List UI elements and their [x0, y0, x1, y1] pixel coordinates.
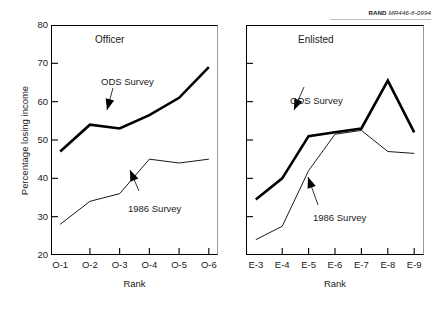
officer-plot-area: [51, 25, 218, 255]
x-tick-label-O-2: O-2: [82, 259, 98, 270]
officer-panel: Officer: [51, 25, 218, 255]
x-tick-label-E-7: E-7: [354, 259, 369, 270]
x-tick-label-E-9: E-9: [407, 259, 422, 270]
officer-1986-survey-annotation: 1986 Survey: [128, 203, 181, 214]
enlisted-1986-survey-annotation: 1986 Survey: [313, 212, 366, 223]
officer-1986-survey-arrowhead: [130, 170, 138, 182]
officer-panel-series-1986: [60, 159, 209, 224]
y-tick-label-20: 20: [37, 250, 48, 259]
x-tick-label-E-6: E-6: [328, 259, 343, 270]
y-tick-label-80: 80: [37, 20, 48, 29]
x-tick-label-E-3: E-3: [248, 259, 263, 270]
y-tick-label-30: 30: [37, 212, 48, 221]
y-tick-label-60: 60: [37, 97, 48, 106]
rand-report-id: MR446-8-0994: [389, 9, 431, 16]
x-tick-label-O-1: O-1: [52, 259, 68, 270]
x-tick-label-O-3: O-3: [112, 259, 128, 270]
x-tick-label-O-5: O-5: [171, 259, 187, 270]
x-tick-label-O-4: O-4: [141, 259, 157, 270]
y-tick-label-40: 40: [37, 173, 48, 182]
figure-two-panel-line-chart: RAND MR446-8-0994 Percentage losing inco…: [0, 0, 434, 309]
y-axis-tick-labels: 20304050607080: [24, 0, 48, 309]
x-tick-label-E-8: E-8: [380, 259, 395, 270]
y-tick-label-70: 70: [37, 58, 48, 67]
officer-ods-survey-annotation: ODS Survey: [101, 76, 154, 87]
enlisted-1986-survey-arrowhead: [308, 177, 316, 189]
y-tick-label-50: 50: [37, 135, 48, 144]
x-tick-label-E-4: E-4: [275, 259, 290, 270]
rand-rule-divider: [330, 19, 431, 20]
enlisted-x-axis-title: Rank: [324, 278, 346, 289]
rand-source-note: RAND MR446-8-0994: [330, 9, 431, 16]
officer-x-axis-title: Rank: [123, 278, 145, 289]
officer-ods-survey-arrowhead: [106, 98, 114, 110]
rand-brand: RAND: [368, 9, 386, 16]
x-tick-label-E-5: E-5: [301, 259, 316, 270]
enlisted-ods-survey-annotation: ODS Survey: [290, 95, 343, 106]
x-tick-label-O-6: O-6: [201, 259, 217, 270]
enlisted-panel-series-1986: [256, 130, 414, 239]
